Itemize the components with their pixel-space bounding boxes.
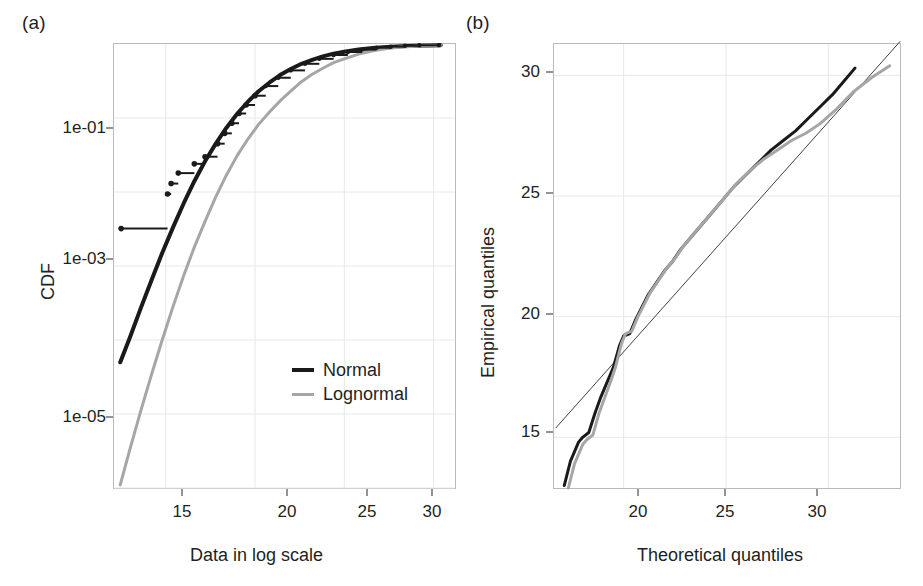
panel-a-ytick-1e-03: 1e-03: [30, 249, 106, 269]
panel-a-tickmarks: [100, 40, 480, 510]
panel-b-y-axis-title: Empirical quantiles: [478, 227, 499, 378]
legend-swatch-lognormal: [292, 393, 314, 396]
panel-a-x-axis-title: Data in log scale: [190, 545, 323, 566]
panel-a-label: (a): [22, 12, 46, 34]
legend-item-normal: Normal: [292, 358, 408, 382]
panel-b-ytick-25: 25: [490, 183, 540, 203]
panel-b-ytick-20: 20: [490, 304, 540, 324]
panel-b-ytick-30: 30: [490, 62, 540, 82]
legend-swatch-normal: [292, 368, 314, 372]
panel-b-x-axis-title: Theoretical quantiles: [637, 545, 803, 566]
panel-a-ytick-1e-01: 1e-01: [30, 118, 106, 138]
panel-b-label: (b): [466, 12, 490, 34]
panel-a-legend: Normal Lognormal: [292, 358, 408, 406]
panel-b-tickmarks: [540, 40, 920, 510]
panel-a-ytick-1e-05: 1e-05: [30, 407, 106, 427]
figure-container: (a) CDF Data in log scale 1e-01 1e-03 1e…: [0, 0, 923, 586]
legend-label-lognormal: Lognormal: [323, 384, 408, 405]
legend-label-normal: Normal: [323, 360, 381, 381]
legend-item-lognormal: Lognormal: [292, 382, 408, 406]
panel-b-ytick-15: 15: [490, 422, 540, 442]
